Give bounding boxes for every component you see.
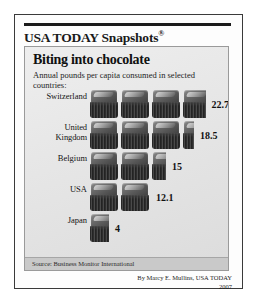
chocolate-gloss <box>124 185 145 190</box>
source-note: Source: Business Monitor International <box>25 257 228 270</box>
chocolate-piece-icon <box>120 90 150 119</box>
row-value: 12.1 <box>156 192 174 203</box>
row-label-usa: USA <box>25 185 87 195</box>
chocolate-gloss <box>186 123 194 128</box>
chocolate-front-ridges <box>121 133 149 149</box>
chocolate-gloss <box>93 123 114 128</box>
chocolate-gloss <box>93 216 109 221</box>
row-value: 15 <box>172 161 182 172</box>
row-value: 18.5 <box>200 130 218 141</box>
chocolate-front-ridges <box>183 133 194 149</box>
chocolate-gloss <box>93 185 114 190</box>
row-label-japan: Japan <box>25 216 87 226</box>
byline: By Marcy E. Mullins, USA TODAY 2007 <box>137 274 232 292</box>
row-label-united-kingdom: UnitedKingdom <box>25 123 87 142</box>
chocolate-front-ridges <box>90 164 118 180</box>
chart-bar <box>89 90 207 121</box>
chart-title: Biting into chocolate <box>33 52 150 68</box>
chocolate-gloss <box>124 92 145 97</box>
chart-bar <box>89 152 167 183</box>
chocolate-front-ridges <box>183 102 206 118</box>
masthead-brand: USA TODAY Snapshots <box>24 30 158 45</box>
chocolate-gloss <box>93 154 114 159</box>
chocolate-gloss <box>155 123 176 128</box>
chocolate-piece-icon <box>151 90 181 119</box>
row-value: 4 <box>115 223 120 234</box>
chocolate-gloss <box>93 92 114 97</box>
chart-row: Switzerland22.7 <box>25 92 229 123</box>
chart-panel: Biting into chocolate Annual pounds per … <box>24 46 229 271</box>
chocolate-front-ridges <box>121 102 149 118</box>
chocolate-front-ridges <box>90 195 118 211</box>
chocolate-front-ridges <box>152 133 180 149</box>
chart-subtitle: Annual pounds per capita consumed in sel… <box>33 70 223 90</box>
chocolate-piece-icon <box>89 121 119 150</box>
chocolate-piece-icon <box>151 121 181 150</box>
chocolate-piece-icon <box>89 90 119 119</box>
chocolate-piece-icon <box>151 152 166 181</box>
row-label-switzerland: Switzerland <box>25 92 87 102</box>
chocolate-front-ridges <box>90 226 109 242</box>
chocolate-gloss <box>124 123 145 128</box>
chocolate-piece-icon <box>120 152 150 181</box>
chocolate-piece-icon <box>89 152 119 181</box>
chocolate-front-ridges <box>121 164 149 180</box>
registered-trademark-icon: ® <box>158 29 164 38</box>
byline-credit: By Marcy E. Mullins, USA TODAY <box>137 274 232 283</box>
chart-row: Belgium15 <box>25 154 229 185</box>
chart-row: Japan4 <box>25 216 229 247</box>
chart-row: UnitedKingdom18.5 <box>25 123 229 154</box>
chocolate-gloss <box>155 154 166 159</box>
chart-bar <box>89 214 110 245</box>
chocolate-piece-icon <box>120 183 150 212</box>
chocolate-front-ridges <box>121 195 149 211</box>
chocolate-piece-icon <box>182 121 194 150</box>
pictogram-plot: Switzerland22.7UnitedKingdom18.5Belgium1… <box>25 92 229 247</box>
chocolate-piece-icon <box>182 90 206 119</box>
snapshot-card: USA TODAY Snapshots® Biting into chocola… <box>14 14 243 289</box>
chocolate-piece-icon <box>120 121 150 150</box>
chocolate-front-ridges <box>90 102 118 118</box>
chart-bar <box>89 121 195 152</box>
chocolate-piece-icon <box>89 214 109 243</box>
masthead-rule <box>24 23 231 26</box>
chocolate-gloss <box>186 92 206 97</box>
masthead: USA TODAY Snapshots® <box>24 23 231 45</box>
row-value: 22.7 <box>212 99 230 110</box>
byline-year: 2007 <box>137 283 232 292</box>
masthead-title: USA TODAY Snapshots® <box>24 29 231 45</box>
chart-row: USA12.1 <box>25 185 229 216</box>
chocolate-piece-icon <box>89 183 119 212</box>
chart-bar <box>89 183 151 214</box>
chocolate-front-ridges <box>152 164 166 180</box>
chocolate-front-ridges <box>90 133 118 149</box>
chocolate-gloss <box>124 154 145 159</box>
chocolate-front-ridges <box>152 102 180 118</box>
row-label-belgium: Belgium <box>25 154 87 164</box>
chocolate-gloss <box>155 92 176 97</box>
